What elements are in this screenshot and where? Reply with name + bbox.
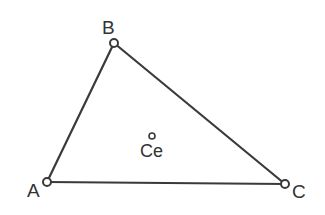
geometry-diagram: A B C Ce (0, 0, 325, 215)
vertex-marker-a (43, 178, 51, 186)
centroid-label: Ce (140, 142, 163, 160)
vertex-label-c: C (292, 182, 306, 201)
centroid-marker (149, 133, 155, 139)
edge-ca (47, 182, 285, 184)
edge-bc (114, 43, 285, 184)
triangle-figure (0, 0, 325, 215)
vertex-marker-c (281, 180, 289, 188)
vertex-label-a: A (27, 181, 40, 200)
vertex-label-b: B (102, 18, 115, 37)
edge-ab (47, 43, 114, 182)
vertex-marker-b (110, 39, 118, 47)
